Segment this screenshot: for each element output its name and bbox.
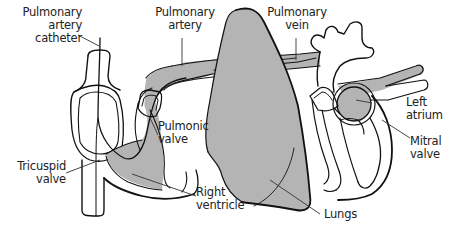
leader-mitral-valve xyxy=(382,120,410,138)
label-pulmonic-valve: Pulmonic valve xyxy=(158,120,218,146)
left-atrium-shape xyxy=(337,87,371,121)
label-left-atrium: Left atrium xyxy=(406,96,456,122)
right-ventricle-fill xyxy=(106,96,164,190)
label-mitral-valve: Mitral valve xyxy=(410,135,456,161)
label-lungs: Lungs xyxy=(324,208,374,221)
label-right-ventricle: Right ventricle xyxy=(196,186,256,212)
label-tricuspid-valve: Tricuspid valve xyxy=(2,160,66,186)
vena-cava xyxy=(88,50,120,90)
label-pulmonary-artery: Pulmonary artery xyxy=(152,6,218,32)
label-pulmonary-vein: Pulmonary vein xyxy=(264,6,330,32)
heart-lung-diagram: Pulmonary artery catheter Pulmonary arte… xyxy=(0,0,456,236)
label-pulmonary-artery-catheter: Pulmonary artery catheter xyxy=(8,6,82,45)
leader-tricuspid-valve xyxy=(66,160,100,173)
